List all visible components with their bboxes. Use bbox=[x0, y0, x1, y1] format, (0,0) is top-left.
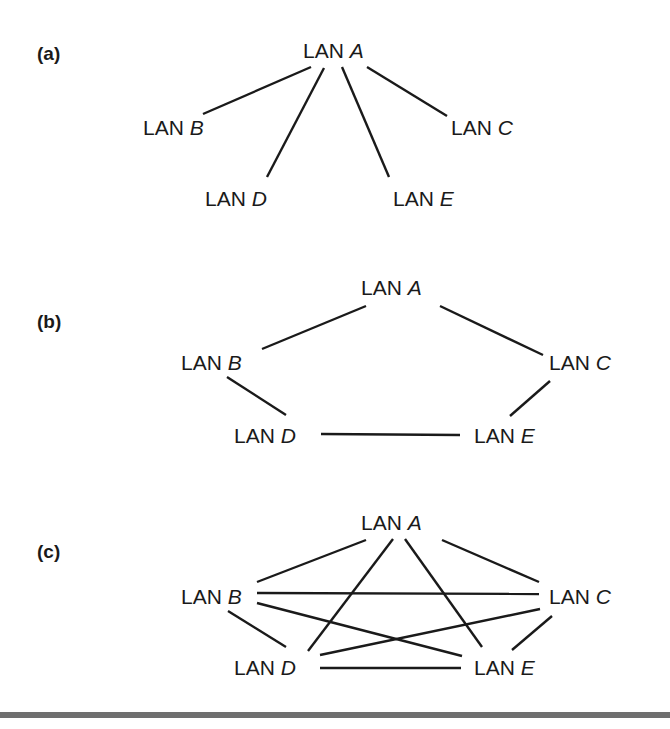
node-lan-d: LAN D bbox=[234, 425, 296, 446]
diagram-canvas: (a) LAN A LAN B LAN C LAN D LAN E (b) LA… bbox=[0, 0, 670, 729]
panel-label-b: (b) bbox=[37, 312, 61, 331]
edge-lan-d-lan-e bbox=[321, 434, 460, 435]
node-lan-a: LAN A bbox=[361, 277, 422, 298]
edge-lan-c-lan-e bbox=[510, 381, 550, 416]
edge-lan-a-lan-c bbox=[440, 306, 543, 355]
node-lan-e: LAN E bbox=[474, 657, 535, 678]
node-lan-e: LAN E bbox=[393, 188, 454, 209]
edge-lan-b-lan-e bbox=[257, 603, 462, 656]
edge-lan-b-lan-c bbox=[257, 593, 539, 594]
edge-lan-b-lan-d bbox=[228, 611, 286, 647]
edge-lan-c-lan-e bbox=[512, 616, 552, 650]
node-lan-c: LAN C bbox=[451, 117, 513, 138]
edge-lan-a-lan-b bbox=[257, 540, 366, 582]
node-lan-c: LAN C bbox=[549, 352, 611, 373]
node-lan-d: LAN D bbox=[234, 657, 296, 678]
node-lan-a: LAN A bbox=[361, 512, 422, 533]
node-lan-e: LAN E bbox=[474, 425, 535, 446]
node-lan-b: LAN B bbox=[181, 352, 242, 373]
edge-lan-a-lan-c bbox=[442, 540, 539, 582]
edge-lan-a-lan-c bbox=[367, 67, 447, 116]
edge-lan-a-lan-e bbox=[342, 67, 389, 177]
edge-lan-a-lan-b bbox=[262, 306, 366, 349]
node-lan-a: LAN A bbox=[303, 40, 364, 61]
edge-lan-a-lan-d bbox=[267, 68, 324, 177]
node-lan-b: LAN B bbox=[181, 586, 242, 607]
edge-lan-b-lan-d bbox=[227, 377, 286, 415]
node-lan-c: LAN C bbox=[549, 586, 611, 607]
node-lan-d: LAN D bbox=[205, 188, 267, 209]
edge-lan-a-lan-b bbox=[203, 67, 311, 114]
panel-label-a: (a) bbox=[37, 44, 60, 63]
bottom-rule-divider bbox=[0, 712, 670, 718]
node-lan-b: LAN B bbox=[143, 117, 204, 138]
panel-label-c: (c) bbox=[37, 542, 60, 561]
